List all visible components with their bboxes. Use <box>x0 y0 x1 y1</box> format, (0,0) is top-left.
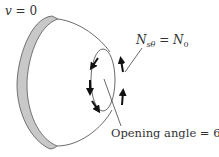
load-rhs-sub: 0 <box>184 40 189 49</box>
load-leader-line <box>125 48 142 72</box>
shear-arrow-right-1 <box>121 60 123 72</box>
clamped-edge <box>17 16 58 149</box>
load-lhs: N <box>136 33 147 47</box>
load-equals: = <box>155 33 173 47</box>
bc-equals: = 0 <box>12 4 37 18</box>
opening-angle-label: Opening angle = 60° <box>111 128 219 140</box>
shell-bottom-curve <box>57 110 112 146</box>
opening-ellipse <box>91 49 115 111</box>
load-rhs: N <box>173 33 184 47</box>
boundary-condition-label: v = 0 <box>5 5 37 17</box>
load-label: Nsθ = N0 <box>136 34 189 49</box>
shear-arrow-right-2 <box>122 92 123 105</box>
bc-variable: v <box>5 4 12 18</box>
shell-top-curve <box>58 19 110 52</box>
